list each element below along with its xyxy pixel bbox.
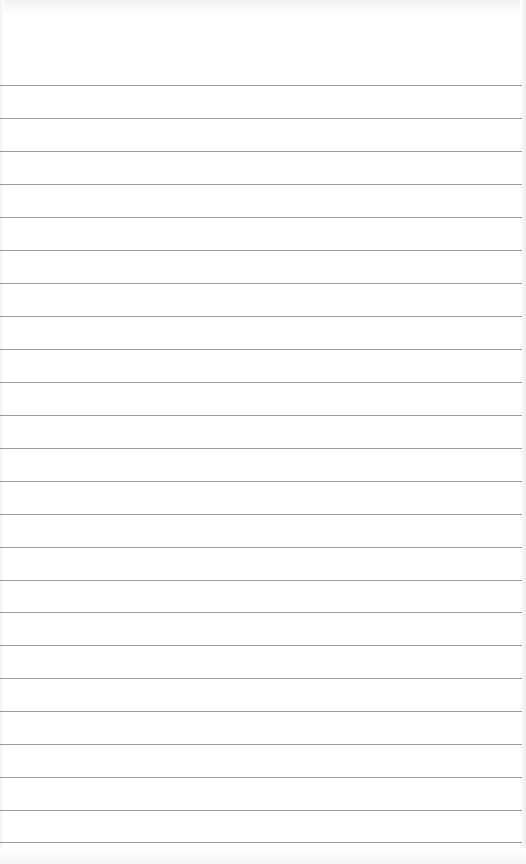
ruled-line [0,744,522,745]
ruled-line [0,678,522,679]
ruled-line [0,415,522,416]
ruled-line [0,250,522,251]
ruled-line [0,382,522,383]
ruled-line [0,612,522,613]
ruled-line [0,448,522,449]
bottom-paper-edge [0,848,526,864]
ruled-line [0,85,522,86]
ruled-line [0,842,522,843]
lined-notepad-page [0,0,526,864]
left-paper-edge [0,0,4,864]
ruled-line [0,580,522,581]
ruled-line [0,118,522,119]
ruled-line [0,283,522,284]
ruled-line [0,810,522,811]
ruled-line [0,514,522,515]
right-paper-edge [520,0,526,864]
ruled-line [0,151,522,152]
ruled-line [0,184,522,185]
ruled-line [0,777,522,778]
ruled-line [0,316,522,317]
ruled-line [0,547,522,548]
ruled-line [0,217,522,218]
ruled-line [0,711,522,712]
ruled-line [0,349,522,350]
ruled-line [0,645,522,646]
ruled-line [0,481,522,482]
top-perforation-edge [0,0,526,14]
